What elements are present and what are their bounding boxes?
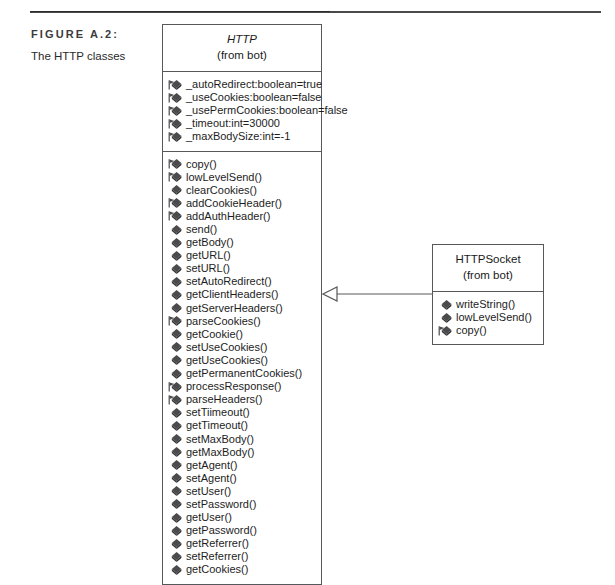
uml-operation-row[interactable]: getCookies() [165,563,319,576]
uml-operation-row[interactable]: getUser() [165,511,319,524]
visibility-protected-icon [168,105,183,117]
visibility-public-icon [168,433,183,445]
visibility-protected-icon [168,92,183,104]
uml-operation-row[interactable]: copy() [435,324,541,337]
uml-operation-row[interactable]: getCookie() [165,328,319,341]
uml-operation-row[interactable]: getPassword() [165,524,319,537]
uml-operation-label: setAutoRedirect() [186,275,272,288]
uml-operation-row[interactable]: getClientHeaders() [165,288,319,301]
visibility-protected-icon [168,171,183,183]
visibility-public-icon [168,485,183,497]
uml-operation-row[interactable]: addAuthHeader() [165,210,319,223]
visibility-public-icon [168,420,183,432]
visibility-public-icon [168,459,183,471]
uml-attribute-row[interactable]: _usePermCookies:boolean=false [165,104,319,117]
uml-operation-label: setAgent() [186,472,237,485]
visibility-public-icon [438,299,453,311]
uml-operation-row[interactable]: processResponse() [165,380,319,393]
uml-operation-label: setReferrer() [186,550,248,563]
uml-operation-label: getReferrer() [186,537,249,550]
uml-attribute-row[interactable]: _useCookies:boolean=false [165,91,319,104]
uml-operation-row[interactable]: getServerHeaders() [165,302,319,315]
generalization-connector [322,283,432,305]
uml-operation-row[interactable]: setURL() [165,262,319,275]
figure-caption: FIGURE A.2: The HTTP classes [31,28,156,63]
uml-operation-row[interactable]: setPassword() [165,498,319,511]
visibility-public-icon [168,472,183,484]
uml-operation-label: getUser() [186,511,232,524]
uml-operation-row[interactable]: getTimeout() [165,419,319,432]
uml-operation-label: processResponse() [186,380,281,393]
visibility-public-icon [168,263,183,275]
uml-attribute-label: _autoRedirect:boolean=true [186,78,322,91]
visibility-protected-icon [168,197,183,209]
uml-operation-label: getServerHeaders() [186,302,283,315]
visibility-protected-icon [168,210,183,222]
uml-operation-row[interactable]: getPermanentCookies() [165,367,319,380]
visibility-public-icon [168,237,183,249]
uml-operation-row[interactable]: setUseCookies() [165,341,319,354]
visibility-protected-icon [168,315,183,327]
uml-class-httpsocket-header: HTTPSocket (from bot) [433,245,543,292]
uml-operation-label: setURL() [186,262,230,275]
uml-operation-row[interactable]: getBody() [165,236,319,249]
uml-operation-row[interactable]: getMaxBody() [165,446,319,459]
generalization-arrow-icon [322,283,432,305]
uml-attribute-label: _useCookies:boolean=false [186,91,321,104]
uml-operation-row[interactable]: writeString() [435,298,541,311]
visibility-public-icon [168,224,183,236]
uml-operation-label: setUseCookies() [186,341,267,354]
uml-operation-label: addCookieHeader() [186,197,282,210]
uml-class-http-header: HTTP (from bot) [163,25,321,72]
uml-operation-row[interactable]: setMaxBody() [165,432,319,445]
visibility-protected-icon [168,79,183,91]
uml-operation-row[interactable]: addCookieHeader() [165,197,319,210]
visibility-public-icon [168,289,183,301]
uml-operation-label: getUseCookies() [186,354,268,367]
uml-operation-label: writeString() [456,298,515,311]
uml-operation-label: parseHeaders() [186,393,262,406]
uml-operation-row[interactable]: getReferrer() [165,537,319,550]
uml-class-http-operations: copy()lowLevelSend()clearCookies()addCoo… [163,151,321,584]
uml-attribute-label: _maxBodySize:int=-1 [186,130,290,143]
uml-operation-label: getPermanentCookies() [186,367,302,380]
uml-class-http[interactable]: HTTP (from bot) _autoRedirect:boolean=tr… [162,24,322,585]
uml-attribute-label: _timeout:int=30000 [186,117,280,130]
visibility-public-icon [168,368,183,380]
uml-operation-row[interactable]: lowLevelSend() [165,171,319,184]
uml-operation-row[interactable]: send() [165,223,319,236]
uml-operation-label: setUser() [186,485,231,498]
uml-operation-row[interactable]: clearCookies() [165,184,319,197]
uml-operation-row[interactable]: setTiimeout() [165,406,319,419]
uml-operation-row[interactable]: lowLevelSend() [435,311,541,324]
visibility-protected-icon [438,325,453,337]
uml-attribute-row[interactable]: _timeout:int=30000 [165,117,319,130]
uml-operation-label: setPassword() [186,498,256,511]
visibility-public-icon [168,551,183,563]
uml-attribute-row[interactable]: _autoRedirect:boolean=true [165,78,319,91]
visibility-public-icon [168,302,183,314]
uml-operation-label: copy() [186,158,217,171]
uml-attribute-row[interactable]: _maxBodySize:int=-1 [165,130,319,143]
uml-operation-row[interactable]: setAgent() [165,472,319,485]
uml-operation-row[interactable]: getAgent() [165,459,319,472]
uml-operation-label: lowLevelSend() [456,311,532,324]
uml-operation-row[interactable]: parseCookies() [165,315,319,328]
uml-operation-row[interactable]: parseHeaders() [165,393,319,406]
uml-operation-row[interactable]: setReferrer() [165,550,319,563]
uml-operation-label: getURL() [186,249,231,262]
uml-operation-row[interactable]: getURL() [165,249,319,262]
uml-operation-row[interactable]: copy() [165,158,319,171]
visibility-public-icon [168,407,183,419]
uml-operation-row[interactable]: setUser() [165,485,319,498]
header-rule [30,11,601,13]
uml-operation-row[interactable]: getUseCookies() [165,354,319,367]
visibility-public-icon [168,525,183,537]
uml-operation-label: send() [186,223,217,236]
uml-operation-label: getBody() [186,236,234,249]
uml-operation-label: parseCookies() [186,315,261,328]
uml-class-httpsocket[interactable]: HTTPSocket (from bot) writeString()lowLe… [432,244,544,345]
uml-operation-label: lowLevelSend() [186,171,262,184]
uml-operation-row[interactable]: setAutoRedirect() [165,275,319,288]
uml-class-httpsocket-package: (from bot) [437,268,539,284]
